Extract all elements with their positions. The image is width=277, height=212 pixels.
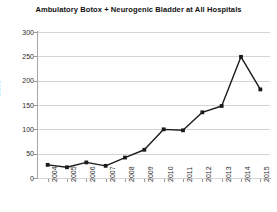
y-tick-label: 50 xyxy=(12,150,34,157)
x-tick-label: 2008 xyxy=(128,166,135,182)
x-tick-mark xyxy=(125,179,126,182)
y-tick-label: 150 xyxy=(12,102,34,109)
x-tick-mark xyxy=(48,179,49,182)
x-tick-mark xyxy=(202,179,203,182)
series-markers xyxy=(46,55,262,169)
x-tick-mark xyxy=(241,179,242,182)
x-tick-mark xyxy=(164,179,165,182)
y-tick-label: 250 xyxy=(12,53,34,60)
x-tick-label: 2009 xyxy=(147,166,154,182)
x-tick-label: 2014 xyxy=(244,166,251,182)
x-tick-label: 2010 xyxy=(167,166,174,182)
data-point xyxy=(239,55,243,59)
chart-figure: Ambulatory Botox + Neurogenic Bladder at… xyxy=(0,0,277,212)
data-point xyxy=(181,128,185,132)
x-tick-label: 2005 xyxy=(70,166,77,182)
x-tick-label: 2007 xyxy=(109,166,116,182)
data-point xyxy=(46,163,50,167)
data-series-line xyxy=(38,32,270,178)
y-tick-label: 100 xyxy=(12,126,34,133)
y-axis-tick-labels: 050100150200250300 xyxy=(8,0,34,212)
x-tick-label: 2004 xyxy=(51,166,58,182)
data-point xyxy=(142,148,146,152)
y-tick-label: 200 xyxy=(12,77,34,84)
x-tick-mark xyxy=(183,179,184,182)
data-point xyxy=(104,164,108,168)
x-tick-mark xyxy=(144,179,145,182)
x-tick-label: 2011 xyxy=(186,167,193,182)
x-tick-label: 2015 xyxy=(263,166,270,182)
data-point xyxy=(65,165,69,169)
y-tick-label: 300 xyxy=(12,29,34,36)
data-point xyxy=(123,156,127,160)
x-tick-label: 2006 xyxy=(89,166,96,182)
y-tick-label: 0 xyxy=(12,175,34,182)
x-tick-mark xyxy=(86,179,87,182)
x-tick-label: 2012 xyxy=(205,166,212,182)
data-point xyxy=(84,161,88,165)
data-point xyxy=(162,127,166,131)
data-point xyxy=(220,104,224,108)
series-polyline xyxy=(48,57,261,167)
plot-area xyxy=(38,32,270,178)
x-tick-mark xyxy=(67,179,68,182)
data-point xyxy=(200,110,204,114)
x-tick-label: 2013 xyxy=(225,166,232,182)
data-point xyxy=(258,88,262,92)
x-tick-mark xyxy=(106,179,107,182)
x-tick-mark xyxy=(260,179,261,182)
y-axis-title: # cases xyxy=(0,80,1,102)
chart-title: Ambulatory Botox + Neurogenic Bladder at… xyxy=(0,5,277,15)
x-tick-mark xyxy=(222,179,223,182)
